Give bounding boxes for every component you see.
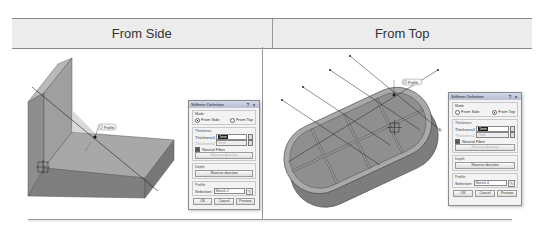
selection-input[interactable]: Sketch.2 [214, 188, 245, 194]
dialog-title: Stiffener Definition [191, 102, 245, 107]
radio-unchecked-icon [455, 110, 460, 115]
ok-button[interactable]: OK [453, 190, 473, 197]
thickness2-label: Thickness2 [195, 141, 215, 146]
column-divider [262, 47, 263, 220]
preview-button[interactable]: Preview [497, 190, 517, 197]
thickness-group-label: Thickness [195, 129, 253, 133]
stiffener-preview [72, 110, 96, 134]
thickness-group-label: Thickness [455, 121, 515, 125]
cancel-button[interactable]: Cancel [214, 198, 233, 205]
header-from-top: From Top [272, 19, 533, 48]
sketch-edit-icon[interactable]: ✎ [246, 188, 253, 195]
thickness2-spinner[interactable] [248, 140, 253, 146]
header-from-side: From Side [12, 19, 272, 48]
thickness-reverse-direction-button[interactable]: Reverse direction [455, 144, 515, 151]
radio-unchecked-icon [230, 118, 235, 123]
mode-group-label: Mode [455, 104, 515, 108]
radio-checked-icon [195, 118, 200, 123]
profile-group-label: Profile [455, 175, 515, 179]
mode-group-label: Mode [195, 112, 253, 116]
close-icon[interactable]: × [251, 102, 257, 108]
thickness-reverse-direction-button[interactable]: Reverse direction [195, 152, 253, 159]
thickness2-label: Thickness2 [455, 133, 475, 138]
axis-triad-icon [36, 160, 50, 174]
mode-from-top-radio[interactable]: From Top [492, 109, 515, 114]
mode-from-side-radio[interactable]: From Side [195, 117, 219, 122]
mode-group: Mode From Side From Top [452, 102, 518, 117]
depth-group: Depth Reverse direction [192, 163, 256, 179]
profile-group: Profile Selection: Sketch.2 ✎ [192, 181, 256, 196]
cancel-button[interactable]: Cancel [475, 190, 495, 197]
selection-label: Selection: [455, 181, 473, 186]
comparison-header: From Side From Top [12, 18, 532, 49]
depth-reverse-direction-button[interactable]: Reverse direction [455, 162, 515, 169]
dialog-titlebar: Stiffener Definition ? × [189, 101, 259, 108]
checkbox-checked-icon [195, 147, 200, 152]
close-icon[interactable]: × [513, 94, 519, 100]
preview-button[interactable]: Preview [236, 198, 255, 205]
selection-label: Selection: [195, 189, 213, 194]
ok-button[interactable]: OK [193, 198, 212, 205]
profile-tag-label: Profile [104, 126, 114, 130]
thickness-group: Thickness Thickness1 1mm Thickness2 1mm … [192, 127, 256, 161]
stiffener-dialog-top: Stiffener Definition ? × Mode From Side … [448, 92, 522, 206]
thickness1-label: Thickness1 [455, 127, 475, 132]
thickness2-input[interactable]: 1mm [476, 132, 509, 138]
stiffener-dialog-side: Stiffener Definition ? × Mode From Side … [188, 100, 260, 210]
depth-group-label: Depth [195, 165, 253, 169]
top-viewport[interactable]: Profile [270, 50, 450, 220]
mode-group: Mode From Side From Top [192, 110, 256, 125]
thickness2-spinner[interactable] [510, 132, 515, 138]
thickness-group: Thickness Thickness1 1mm Thickness2 1mm … [452, 119, 518, 153]
profile-group-label: Profile [195, 183, 253, 187]
checkbox-checked-icon [455, 139, 460, 144]
mode-from-side-radio[interactable]: From Side [455, 109, 479, 114]
sketch-edit-icon[interactable]: ✎ [508, 180, 515, 187]
profile-group: Profile Selection: Sketch.4 ✎ [452, 173, 518, 188]
depth-group-label: Depth [455, 157, 515, 161]
side-viewport[interactable]: Profile [0, 50, 190, 220]
selection-input[interactable]: Sketch.4 [474, 180, 507, 186]
dialog-titlebar: Stiffener Definition ? × [449, 93, 521, 100]
depth-group: Depth Reverse direction [452, 155, 518, 171]
thickness1-label: Thickness1 [195, 135, 215, 140]
mode-from-top-radio[interactable]: From Top [230, 117, 253, 122]
profile-tag-label: Profile [408, 81, 418, 85]
thickness2-input[interactable]: 1mm [216, 140, 247, 146]
radio-checked-icon [492, 110, 497, 115]
depth-reverse-direction-button[interactable]: Reverse direction [195, 170, 253, 177]
dialog-title: Stiffener Definition [451, 94, 507, 99]
